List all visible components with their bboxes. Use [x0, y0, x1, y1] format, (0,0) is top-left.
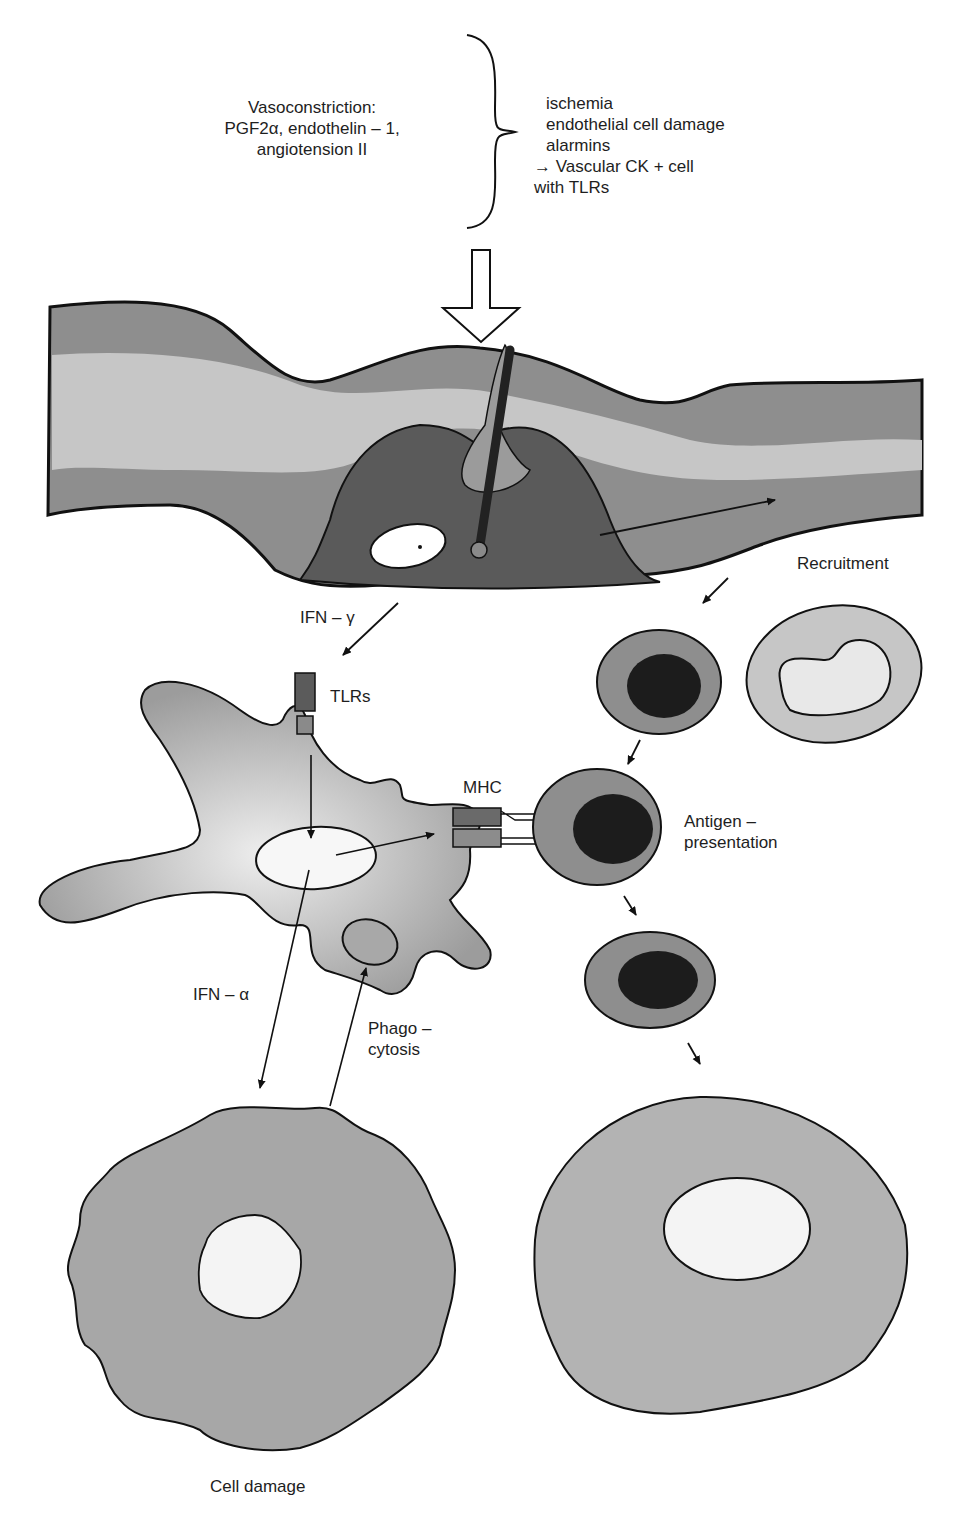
angiotensin-line: angiotension II [222, 139, 402, 160]
antigen-line: Antigen – [684, 811, 778, 832]
recruitment-label: Recruitment [797, 553, 889, 574]
cytosis-line: cytosis [368, 1039, 431, 1060]
vasoconstrictor-list-line: PGF2α, endothelin – 1, [222, 118, 402, 139]
mhc-label: MHC [463, 777, 502, 798]
vascular-ck-line: → Vascular CK + cell [534, 156, 725, 177]
dendritic-cell-graphic [40, 673, 540, 994]
vasoconstriction-line: Vasoconstriction: [222, 97, 402, 118]
ifn-gamma-label: IFN – γ [300, 607, 355, 628]
alarmins-line: alarmins [534, 135, 725, 156]
antigen-presentation-label: Antigen – presentation [684, 811, 778, 853]
presentation-line: presentation [684, 832, 778, 853]
diagram-artwork [0, 0, 957, 1520]
plasma-cell-graphic [534, 1097, 907, 1414]
curly-brace-icon [467, 35, 515, 228]
endothelial-damage-line: endothelial cell damage [534, 114, 725, 135]
tlrs-label: TLRs [330, 686, 371, 707]
phago-line: Phago – [368, 1018, 431, 1039]
phagocytosis-label: Phago – cytosis [368, 1018, 431, 1060]
ifn-alpha-label: IFN – α [193, 984, 249, 1005]
ischemia-effects-text: ischemia endothelial cell damage alarmin… [534, 93, 725, 198]
blood-vessel-graphic [48, 302, 922, 589]
ischemia-line: ischemia [534, 93, 725, 114]
diagram-canvas: Vasoconstriction: PGF2α, endothelin – 1,… [0, 0, 957, 1520]
cell-damage-label: Cell damage [210, 1476, 305, 1497]
damaged-cell-graphic [68, 1107, 455, 1450]
with-tlrs-line: with TLRs [534, 177, 725, 198]
vasoconstriction-text: Vasoconstriction: PGF2α, endothelin – 1,… [222, 97, 402, 160]
hollow-down-arrow-icon [443, 250, 519, 342]
